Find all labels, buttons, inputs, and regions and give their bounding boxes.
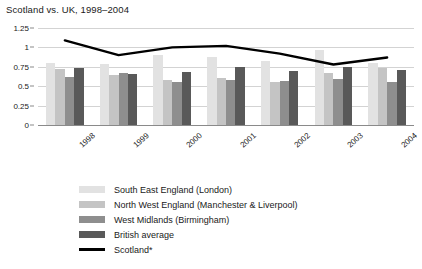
x-tick-label: 2002: [292, 131, 311, 150]
scotland-line: [65, 40, 387, 64]
legend-label: Scotland*: [114, 245, 153, 255]
y-tick-label: 0.5: [18, 82, 29, 91]
x-tick-label: 2000: [185, 131, 204, 150]
x-tick-label: 2003: [346, 131, 365, 150]
legend-color-swatch: [79, 216, 105, 223]
legend-item: North West England (Manchester & Liverpo…: [79, 197, 297, 212]
legend-label: North West England (Manchester & Liverpo…: [114, 200, 297, 210]
y-tick-label: 1.25: [13, 24, 29, 33]
x-tick-label: 1999: [131, 131, 150, 150]
y-tick-mark: [30, 105, 34, 106]
y-tick-label: 0.75: [13, 62, 29, 71]
x-tick-label: 2004: [400, 131, 419, 150]
chart-container: Scotland vs. UK, 1998–2004 1.2510.750.50…: [0, 0, 422, 269]
x-tick-label: 1998: [77, 131, 96, 150]
legend-item: British average: [79, 227, 297, 242]
legend-color-swatch: [79, 231, 105, 238]
y-tick-mark: [30, 66, 34, 67]
legend-color-swatch: [79, 201, 105, 208]
legend-label: British average: [114, 230, 174, 240]
legend-label: South East England (London): [114, 185, 232, 195]
x-tick-label: 2001: [239, 131, 258, 150]
chart-legend: South East England (London)North West En…: [79, 182, 297, 257]
y-tick-label: 1: [25, 43, 29, 52]
y-tick-label: 0.25: [13, 101, 29, 110]
plot-area: [38, 28, 414, 125]
legend-line-swatch: [79, 248, 105, 251]
y-tick-mark: [30, 47, 34, 48]
legend-label: West Midlands (Birmingham): [114, 215, 229, 225]
y-axis: 1.2510.750.50.250: [0, 28, 34, 125]
y-tick-label: 0: [25, 121, 29, 130]
legend-color-swatch: [79, 186, 105, 193]
scotland-line-layer: [38, 28, 414, 125]
y-tick-mark: [30, 86, 34, 87]
y-tick-mark: [30, 125, 34, 126]
legend-item: Scotland*: [79, 242, 297, 257]
chart-title: Scotland vs. UK, 1998–2004: [6, 4, 129, 15]
legend-item: South East England (London): [79, 182, 297, 197]
x-axis: 1998199920002001200220032004: [38, 125, 414, 165]
y-tick-mark: [30, 28, 34, 29]
legend-item: West Midlands (Birmingham): [79, 212, 297, 227]
